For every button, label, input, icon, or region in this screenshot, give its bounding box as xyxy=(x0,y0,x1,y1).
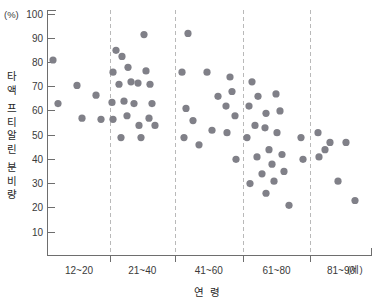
data-point xyxy=(73,82,80,89)
y-tick-label: 90 xyxy=(32,33,44,44)
data-point xyxy=(148,100,155,107)
y-axis-title-char: 액 xyxy=(7,84,17,96)
y-tick-label: 10 xyxy=(32,227,44,238)
data-point xyxy=(195,141,202,148)
data-point xyxy=(145,115,152,122)
y-tick-label: 20 xyxy=(32,202,44,213)
data-point xyxy=(109,69,116,76)
data-point xyxy=(334,178,341,185)
data-point xyxy=(151,122,158,129)
data-point xyxy=(184,30,191,37)
data-point xyxy=(285,202,292,209)
data-point xyxy=(223,129,230,136)
data-point xyxy=(262,190,269,197)
data-point xyxy=(108,99,115,106)
x-category-label: 41~60 xyxy=(195,265,224,276)
y-axis-title-char: 린 xyxy=(7,143,17,155)
data-point xyxy=(278,151,285,158)
data-point xyxy=(112,47,119,54)
y-tick-label: 80 xyxy=(32,57,44,68)
x-category-label: 61~80 xyxy=(262,265,291,276)
y-axis-title-char: 프 xyxy=(7,102,17,114)
data-point xyxy=(178,69,185,76)
y-tick-label: 70 xyxy=(32,81,44,92)
data-point xyxy=(123,112,130,119)
y-axis-title-char: 알 xyxy=(7,129,17,141)
data-point xyxy=(120,98,127,105)
y-axis-title-char: 티 xyxy=(7,116,17,128)
data-point xyxy=(208,127,215,134)
data-point xyxy=(261,124,268,131)
y-axis-unit-label: (%) xyxy=(4,9,19,20)
data-point xyxy=(246,180,253,187)
data-point xyxy=(258,170,265,177)
data-point xyxy=(254,93,261,100)
data-point xyxy=(314,129,321,136)
y-tick-label: 60 xyxy=(32,105,44,116)
data-point xyxy=(182,105,189,112)
data-points-layer xyxy=(49,30,358,209)
data-point xyxy=(109,116,116,123)
y-tick-label: 40 xyxy=(32,154,44,165)
data-point xyxy=(253,153,260,160)
data-point xyxy=(135,122,142,129)
data-point xyxy=(124,64,131,71)
data-point xyxy=(245,102,252,109)
data-point xyxy=(232,156,239,163)
data-point xyxy=(203,69,210,76)
data-point xyxy=(137,134,144,141)
data-point xyxy=(248,78,255,85)
x-axis-ticks xyxy=(111,256,311,263)
data-point xyxy=(228,88,235,95)
data-point xyxy=(315,153,322,160)
data-point xyxy=(189,117,196,124)
x-category-label: 21~40 xyxy=(128,265,157,276)
y-axis-title-char: 타 xyxy=(7,70,17,82)
scatter-chart: (%) 102030405060708090100 타액프티알린분비량 12~2… xyxy=(0,0,389,308)
data-point xyxy=(92,92,99,99)
data-point xyxy=(97,116,104,123)
data-point xyxy=(326,139,333,146)
x-axis-title: 연 령 xyxy=(194,286,221,298)
data-point xyxy=(270,178,277,185)
data-point xyxy=(273,129,280,136)
data-point xyxy=(321,146,328,153)
data-point xyxy=(130,100,137,107)
x-axis-category-labels: 12~2021~4041~6061~8081~90 xyxy=(65,265,356,276)
data-point xyxy=(134,79,141,86)
data-point xyxy=(272,90,279,97)
data-point xyxy=(214,93,221,100)
data-point xyxy=(142,67,149,74)
chart-svg: (%) 102030405060708090100 타액프티알린분비량 12~2… xyxy=(0,0,389,308)
data-point xyxy=(342,139,349,146)
data-point xyxy=(251,122,258,129)
data-point xyxy=(54,100,61,107)
data-point xyxy=(180,134,187,141)
y-tick-label: 30 xyxy=(32,178,44,189)
data-point xyxy=(127,78,134,85)
y-tick-label: 100 xyxy=(26,9,43,20)
data-point xyxy=(280,168,287,175)
data-point xyxy=(265,146,272,153)
data-point xyxy=(243,134,250,141)
data-point xyxy=(351,197,358,204)
data-point xyxy=(276,107,283,114)
y-axis-title: 타액프티알린분비량 xyxy=(7,70,17,200)
data-point xyxy=(262,110,269,117)
data-point xyxy=(49,56,56,63)
data-point xyxy=(226,73,233,80)
data-point xyxy=(118,53,125,60)
y-axis-title-char: 량 xyxy=(7,188,17,200)
y-axis-ticks: 102030405060708090100 xyxy=(26,9,55,238)
data-point xyxy=(299,156,306,163)
data-point xyxy=(146,81,153,88)
data-point xyxy=(117,134,124,141)
y-axis-title-char: 비 xyxy=(7,175,17,187)
y-axis-title-char: 분 xyxy=(7,161,17,173)
data-point xyxy=(297,134,304,141)
data-point xyxy=(140,31,147,38)
data-point xyxy=(231,112,238,119)
y-tick-label: 50 xyxy=(32,130,44,141)
data-point xyxy=(268,161,275,168)
x-axis-unit-label: (세) xyxy=(347,264,362,275)
